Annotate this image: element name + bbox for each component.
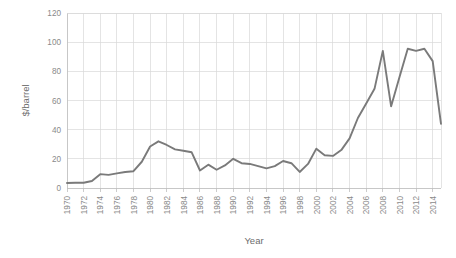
y-tick-label: 80 [52, 67, 62, 76]
x-tick-label: 1990 [229, 196, 238, 215]
y-tick-labels: 020406080100120 [47, 9, 61, 193]
y-tick-label: 100 [47, 38, 61, 47]
x-tick-label: 1986 [196, 196, 205, 215]
x-tick-label: 2000 [313, 196, 322, 215]
x-tick-label: 2006 [362, 196, 371, 215]
x-tick-label: 2012 [412, 196, 421, 215]
grid-lines [67, 13, 441, 188]
x-tick-label: 2010 [396, 196, 405, 215]
x-axis-title: Year [244, 235, 263, 246]
x-tick-label: 1994 [263, 196, 272, 215]
x-tick-label: 1970 [63, 196, 72, 215]
x-tick-label: 2014 [429, 196, 438, 215]
x-tick-label: 1980 [146, 196, 155, 215]
x-tick-label: 2004 [346, 196, 355, 215]
y-tick-label: 20 [52, 155, 62, 164]
x-tick-label: 1972 [80, 196, 89, 215]
y-tick-label: 60 [52, 97, 62, 106]
x-tick-label: 1996 [279, 196, 288, 215]
x-tick-label: 1976 [113, 196, 122, 215]
x-tick-label: 1982 [163, 196, 172, 215]
x-tick-label: 1984 [180, 196, 189, 215]
y-tick-label: 0 [56, 184, 61, 193]
chart-canvas: 0204060801001201970197219741976197819801… [0, 0, 456, 258]
y-tick-label: 40 [52, 126, 62, 135]
y-tick-label: 120 [47, 9, 61, 18]
x-tick-label: 2002 [329, 196, 338, 215]
x-tick-label: 1998 [296, 196, 305, 215]
x-tick-label: 1978 [130, 196, 139, 215]
x-tick-label: 1992 [246, 196, 255, 215]
y-axis-title: $/barrel [20, 84, 31, 116]
x-tick-label: 2008 [379, 196, 388, 215]
x-tick-label: 1988 [213, 196, 222, 215]
series-line-crude-oil-price [67, 49, 441, 183]
oil-price-line-chart: 0204060801001201970197219741976197819801… [0, 0, 456, 258]
x-tick-labels: 1970197219741976197819801982198419861988… [63, 188, 438, 214]
x-tick-label: 1974 [96, 196, 105, 215]
